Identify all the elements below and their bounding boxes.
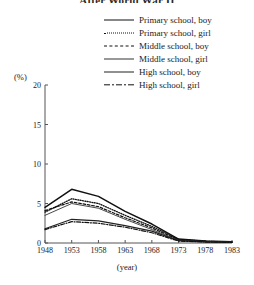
series-line	[45, 202, 232, 242]
series-line	[45, 189, 232, 242]
plot-area	[0, 0, 254, 285]
chart-figure: After World War II Primary school, boy P…	[0, 0, 254, 285]
series-line	[45, 199, 232, 242]
